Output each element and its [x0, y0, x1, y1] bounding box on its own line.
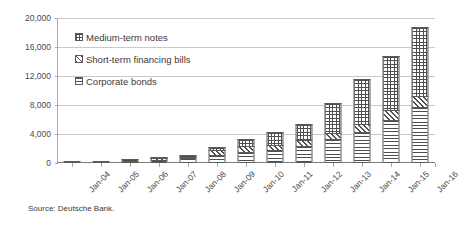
x-axis-tick-mark	[159, 163, 160, 167]
y-axis-tick-label: 4,000	[5, 130, 51, 139]
bar-segment	[412, 96, 429, 107]
bar-segment	[354, 79, 371, 124]
x-axis-tick-label: Jan-10	[261, 169, 286, 194]
x-axis-tick-label: Jan-14	[377, 169, 402, 194]
bar-segment	[325, 139, 342, 163]
bar-segment	[267, 150, 284, 163]
source-note: Source: Deutsche Bank.	[28, 204, 114, 214]
legend-item: Medium-term notes	[75, 26, 265, 48]
x-axis-tick-mark	[72, 163, 73, 167]
x-axis-tick-label: Jan-11	[289, 169, 314, 194]
bar-group	[290, 18, 319, 163]
x-axis-tick-label: Jan-16	[435, 169, 460, 194]
x-axis-tick-label: Jan-07	[173, 169, 198, 194]
bar-segment	[354, 124, 371, 132]
x-axis-tick-mark	[246, 163, 247, 167]
y-axis-tick-label: 12,000	[5, 72, 51, 81]
y-axis-tick-label: 0	[5, 159, 51, 168]
bar-group	[406, 18, 435, 163]
legend-label: Medium-term notes	[86, 32, 168, 43]
x-axis-tick-label: Jan-05	[115, 169, 140, 194]
bar-segment	[412, 107, 429, 163]
stacked-bar	[354, 79, 371, 163]
bar-segment	[296, 124, 313, 140]
legend-item: Short-term financing bills	[75, 48, 265, 70]
bar-group	[377, 18, 406, 163]
stacked-bar	[325, 103, 342, 163]
bar-segment	[237, 139, 254, 147]
bar-segment	[354, 132, 371, 163]
x-axis-tick-mark	[188, 163, 189, 167]
x-axis-tick-mark	[420, 163, 421, 167]
x-axis-tick-label: Jan-04	[86, 169, 111, 194]
legend-swatch-icon	[75, 33, 83, 41]
bar-group	[319, 18, 348, 163]
x-axis-tick-mark	[101, 163, 102, 167]
bar-segment	[267, 132, 284, 145]
stacked-bar	[267, 132, 284, 163]
stacked-bar	[412, 27, 429, 163]
x-axis-tick-mark	[435, 163, 436, 167]
stacked-bar	[296, 124, 313, 163]
x-axis-tick-label: Jan-09	[232, 169, 257, 194]
legend-label: Short-term financing bills	[86, 54, 191, 65]
bar-group	[348, 18, 377, 163]
legend-label: Corporate bonds	[86, 76, 157, 87]
x-axis-tick-label: Jan-12	[319, 169, 344, 194]
y-axis-tick-label: 16,000	[5, 43, 51, 52]
y-axis-tick-label: 20,000	[5, 14, 51, 23]
chart-legend: Medium-term notesShort-term financing bi…	[75, 26, 265, 92]
x-axis-tick-mark	[304, 163, 305, 167]
bar-segment	[383, 120, 400, 163]
x-axis-tick-label: Jan-08	[202, 169, 227, 194]
x-axis-tick-mark	[362, 163, 363, 167]
x-axis-tick-mark	[217, 163, 218, 167]
x-axis-tick-mark	[333, 163, 334, 167]
bar-segment	[237, 152, 254, 163]
x-axis-tick-mark	[130, 163, 131, 167]
chart-plot-container: 04,0008,00012,00016,00020,000 Medium-ter…	[0, 6, 455, 171]
bar-segment	[296, 146, 313, 163]
legend-swatch-icon	[75, 77, 83, 85]
bar-segment	[412, 27, 429, 97]
bar-segment	[208, 155, 225, 163]
x-axis-tick-label: Jan-15	[406, 169, 431, 194]
x-axis-tick-label: Jan-06	[144, 169, 169, 194]
legend-item: Corporate bonds	[75, 70, 265, 92]
stacked-bar	[208, 147, 225, 163]
y-axis-tick-label: 8,000	[5, 101, 51, 110]
x-axis-tick-mark	[275, 163, 276, 167]
stacked-bar	[383, 56, 400, 163]
legend-swatch-icon	[75, 55, 83, 63]
stacked-bar	[179, 155, 196, 163]
bar-segment	[325, 103, 342, 133]
x-axis-tick-label: Jan-13	[348, 169, 373, 194]
bar-segment	[383, 110, 400, 120]
bar-segment	[383, 56, 400, 110]
x-axis-tick-mark	[391, 163, 392, 167]
stacked-bar	[237, 139, 254, 163]
